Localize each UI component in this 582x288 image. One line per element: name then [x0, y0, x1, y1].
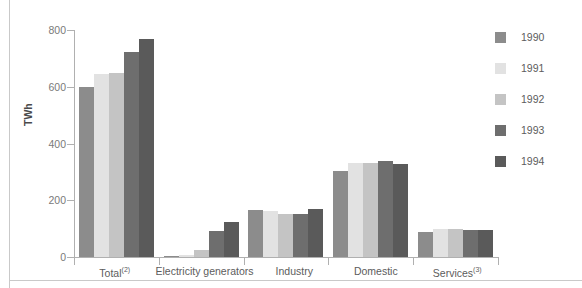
bar-1993-industry[interactable]	[293, 214, 308, 257]
y-axis-tick-label: 800	[26, 25, 66, 36]
legend-item-1991[interactable]: 1991	[495, 53, 575, 84]
bar-groups	[74, 30, 498, 257]
bar-group	[413, 30, 498, 257]
y-axis-tick-label: 400	[26, 139, 66, 150]
legend-item-1992[interactable]: 1992	[495, 84, 575, 115]
bar-1991-total[interactable]	[94, 74, 109, 257]
bar-1994-electricity-generators[interactable]	[224, 222, 239, 257]
x-axis-tick-mark	[74, 257, 75, 265]
bar-1993-services[interactable]	[463, 230, 478, 257]
bar-1992-industry[interactable]	[278, 214, 293, 257]
y-axis-tick-mark	[67, 30, 74, 31]
legend-item-1993[interactable]: 1993	[495, 115, 575, 146]
legend-item-1990[interactable]: 1990	[495, 22, 575, 53]
legend-label: 1994	[521, 156, 544, 167]
bar-1993-domestic[interactable]	[378, 161, 393, 257]
footnote-marker: (3)	[473, 266, 482, 273]
bar-1993-total[interactable]	[124, 52, 139, 257]
bar-1993-electricity-generators[interactable]	[209, 231, 224, 257]
x-axis-tick-mark	[159, 257, 160, 265]
y-axis-tick-label: 200	[26, 195, 66, 206]
legend-color-swatch	[495, 94, 506, 105]
legend-color-swatch	[495, 32, 506, 43]
bar-1990-domestic[interactable]	[333, 171, 348, 257]
bar-group	[159, 30, 244, 257]
legend-color-swatch	[495, 63, 506, 74]
x-axis-tick-mark	[498, 257, 499, 265]
legend-item-1994[interactable]: 1994	[495, 146, 575, 177]
bar-1992-domestic[interactable]	[363, 163, 378, 257]
x-axis-line	[74, 257, 498, 258]
bar-1992-services[interactable]	[448, 229, 463, 257]
x-axis-tick-mark	[328, 257, 329, 265]
bar-1991-electricity-generators[interactable]	[179, 255, 194, 257]
legend-label: 1990	[521, 32, 544, 43]
x-axis-tick-mark	[413, 257, 414, 265]
y-axis-labels: 0200400600800	[22, 0, 66, 288]
chart-legend: 19901991199219931994	[495, 22, 575, 177]
bar-1990-total[interactable]	[79, 87, 94, 257]
bar-1994-services[interactable]	[478, 230, 493, 257]
legend-color-swatch	[495, 156, 506, 167]
footnote-marker: (2)	[122, 266, 131, 273]
bar-group	[74, 30, 159, 257]
x-axis-tick-mark	[244, 257, 245, 265]
bar-1992-total[interactable]	[109, 73, 124, 257]
y-axis-title: TWh	[22, 103, 34, 126]
y-axis-tick-mark	[67, 257, 74, 258]
legend-color-swatch	[495, 125, 506, 136]
bar-1990-electricity-generators[interactable]	[164, 256, 179, 257]
bar-chart-figure: 0200400600800 TWh Total(2)Electricity ge…	[0, 0, 582, 288]
bar-1990-services[interactable]	[418, 232, 433, 257]
x-axis-category-label: Services(3)	[417, 266, 498, 284]
bar-1991-services[interactable]	[433, 229, 448, 257]
y-axis-tick-mark	[67, 144, 74, 145]
bar-1991-industry[interactable]	[263, 211, 278, 257]
x-axis-category-label: Industry	[254, 266, 335, 284]
x-axis-category-label: Total(2)	[74, 266, 155, 284]
y-axis-tick-mark	[67, 200, 74, 201]
x-axis-category-label: Electricity generators	[155, 266, 253, 284]
legend-label: 1993	[521, 125, 544, 136]
bar-1992-electricity-generators[interactable]	[194, 250, 209, 257]
legend-label: 1992	[521, 94, 544, 105]
y-axis-tick-label: 0	[26, 252, 66, 263]
bar-1994-industry[interactable]	[308, 209, 323, 257]
bar-1990-industry[interactable]	[248, 210, 263, 257]
y-axis-tick-label: 600	[26, 82, 66, 93]
bar-1994-domestic[interactable]	[393, 164, 408, 257]
figure-left-border	[9, 0, 10, 288]
legend-label: 1991	[521, 63, 544, 74]
x-axis-category-label: Domestic	[335, 266, 416, 284]
bar-1991-domestic[interactable]	[348, 163, 363, 257]
bar-1994-total[interactable]	[139, 39, 154, 257]
bar-group	[244, 30, 329, 257]
y-axis-tick-mark	[67, 87, 74, 88]
x-axis-category-labels: Total(2)Electricity generatorsIndustryDo…	[74, 266, 498, 284]
bar-group	[328, 30, 413, 257]
